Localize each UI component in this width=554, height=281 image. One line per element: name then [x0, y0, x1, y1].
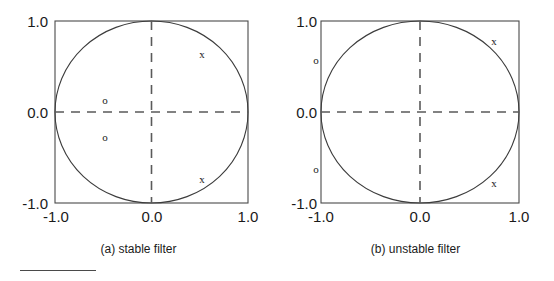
x-tick-label-a-left: -1.0	[43, 209, 69, 224]
y-tick-label-a-top: 1.0	[0, 14, 48, 29]
plot-area-b	[309, 8, 541, 223]
y-tick-label-b-top: 1.0	[273, 14, 317, 29]
x-tick-label-a-right: 1.0	[238, 209, 259, 224]
zero-marker: o	[313, 55, 319, 66]
panel-caption-b: (b) unstable filter	[277, 243, 554, 255]
pole-marker: x	[491, 178, 497, 189]
x-tick-label-a-mid: 0.0	[142, 209, 163, 224]
x-tick-label-b-right: 1.0	[509, 209, 530, 224]
x-tick-label-b-left: -1.0	[308, 209, 334, 224]
zero-marker: o	[313, 164, 319, 175]
footnote-rule	[20, 270, 96, 271]
pole-marker: x	[199, 174, 205, 185]
pole-marker: x	[199, 49, 205, 60]
zero-marker: o	[102, 132, 108, 143]
x-tick-label-b-mid: 0.0	[410, 209, 431, 224]
y-tick-label-b-mid: 0.0	[273, 105, 317, 120]
panel-caption-a: (a) stable filter	[0, 243, 277, 255]
y-tick-label-a-mid: 0.0	[0, 105, 48, 120]
panel-unstable-filter: 1.0 0.0 -1.0 -1.0 0.0 1.0 x o o x (b) un…	[277, 0, 554, 281]
panel-stable-filter: 1.0 0.0 -1.0 -1.0 0.0 1.0 x o o x (a) st…	[0, 0, 277, 281]
zero-marker: o	[102, 95, 108, 106]
figure-pole-zero-plots: 1.0 0.0 -1.0 -1.0 0.0 1.0 x o o x (a) st…	[0, 0, 554, 281]
y-tick-label-a-bottom: -1.0	[0, 196, 48, 211]
plot-area-a	[33, 8, 265, 223]
pole-marker: x	[491, 36, 497, 47]
